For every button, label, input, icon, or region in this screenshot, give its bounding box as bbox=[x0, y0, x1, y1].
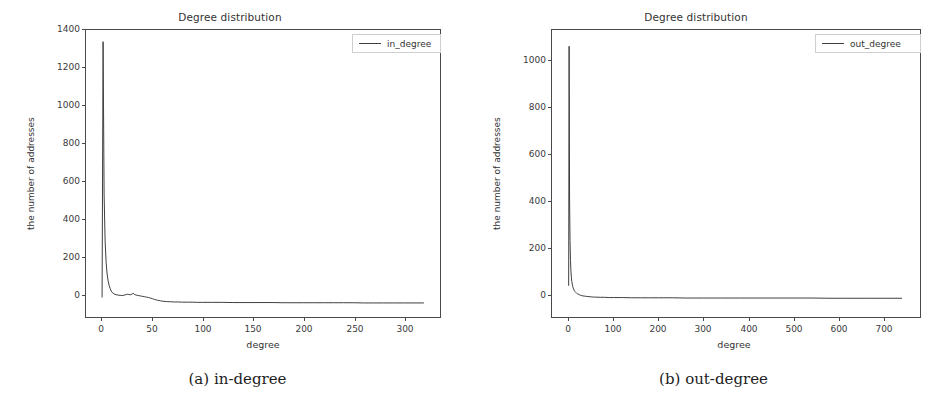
x-tick-label: 300 bbox=[694, 324, 711, 334]
plot-curve-b bbox=[552, 30, 920, 317]
x-tick-mark bbox=[203, 318, 204, 321]
x-tick-label: 50 bbox=[146, 324, 157, 334]
legend-line-icon bbox=[822, 43, 844, 44]
y-tick-label: 600 bbox=[48, 176, 80, 186]
plot-curve-a bbox=[86, 30, 440, 317]
subfigure-caption-b: (b) out-degree bbox=[476, 370, 951, 388]
x-tick-label: 300 bbox=[396, 324, 413, 334]
legend-label: out_degree bbox=[850, 39, 901, 49]
y-tick-label: 600 bbox=[514, 149, 546, 159]
x-tick-label: 700 bbox=[875, 324, 892, 334]
y-tick-label: 1200 bbox=[48, 62, 80, 72]
x-tick-mark bbox=[405, 318, 406, 321]
x-tick-label: 200 bbox=[649, 324, 666, 334]
plot-area-a bbox=[85, 29, 441, 318]
x-tick-label: 0 bbox=[565, 324, 571, 334]
x-tick-mark bbox=[568, 318, 569, 321]
x-tick-label: 0 bbox=[98, 324, 104, 334]
x-tick-mark bbox=[613, 318, 614, 321]
x-tick-mark bbox=[253, 318, 254, 321]
x-tick-label: 200 bbox=[295, 324, 312, 334]
y-tick-label: 400 bbox=[48, 214, 80, 224]
x-tick-mark bbox=[794, 318, 795, 321]
legend-a[interactable]: in_degree bbox=[352, 34, 441, 53]
y-axis-label-b: the number of addresses bbox=[492, 117, 502, 230]
x-tick-mark bbox=[152, 318, 153, 321]
y-tick-label: 0 bbox=[514, 290, 546, 300]
x-tick-label: 400 bbox=[740, 324, 757, 334]
plot-area-b bbox=[551, 29, 921, 318]
chart-title-a: Degree distribution bbox=[20, 11, 440, 23]
x-tick-label: 600 bbox=[830, 324, 847, 334]
y-tick-label: 1400 bbox=[48, 24, 80, 34]
x-tick-label: 100 bbox=[604, 324, 621, 334]
x-tick-mark bbox=[101, 318, 102, 321]
y-axis-label-a: the number of addresses bbox=[26, 117, 36, 230]
y-tick-label: 200 bbox=[514, 243, 546, 253]
legend-b[interactable]: out_degree bbox=[815, 34, 921, 53]
x-axis-label-b: degree bbox=[717, 339, 750, 350]
figure-panel-a: Degree distribution the number of addres… bbox=[0, 0, 475, 406]
y-tick-label: 1000 bbox=[48, 100, 80, 110]
x-tick-label: 100 bbox=[194, 324, 211, 334]
y-tick-label: 800 bbox=[48, 138, 80, 148]
x-tick-mark bbox=[304, 318, 305, 321]
x-tick-label: 500 bbox=[785, 324, 802, 334]
x-tick-mark bbox=[839, 318, 840, 321]
x-tick-label: 150 bbox=[244, 324, 261, 334]
legend-line-icon bbox=[359, 43, 381, 44]
x-tick-label: 250 bbox=[346, 324, 363, 334]
legend-label: in_degree bbox=[387, 39, 431, 49]
x-axis-label-a: degree bbox=[246, 339, 279, 350]
x-tick-mark bbox=[703, 318, 704, 321]
subfigure-caption-a: (a) in-degree bbox=[0, 370, 475, 388]
y-tick-label: 200 bbox=[48, 252, 80, 262]
x-tick-mark bbox=[355, 318, 356, 321]
y-tick-label: 1000 bbox=[514, 55, 546, 65]
y-tick-label: 0 bbox=[48, 290, 80, 300]
figure-panel-b: Degree distribution the number of addres… bbox=[476, 0, 951, 406]
chart-title-b: Degree distribution bbox=[486, 11, 906, 23]
y-tick-label: 800 bbox=[514, 102, 546, 112]
x-tick-mark bbox=[658, 318, 659, 321]
x-tick-mark bbox=[749, 318, 750, 321]
figure-container: Degree distribution the number of addres… bbox=[0, 0, 951, 406]
y-tick-label: 400 bbox=[514, 196, 546, 206]
x-tick-mark bbox=[884, 318, 885, 321]
